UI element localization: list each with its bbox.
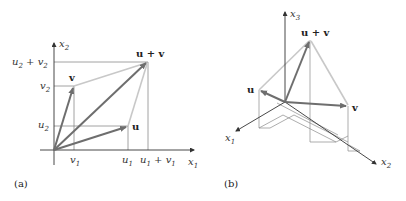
panel-b: x3 x1 x2 u + v u v (b) xyxy=(224,8,392,189)
x1-axis-label: x1 xyxy=(225,132,235,146)
x3-axis-label: x3 xyxy=(290,8,301,22)
caption-a: (a) xyxy=(14,178,28,189)
label-u-plus-v: u + v xyxy=(301,27,331,38)
label-v: v xyxy=(351,102,359,113)
panel-a: x2 x1 u + v v u u2 + v2 v2 u2 v1 u1 u1 +… xyxy=(12,38,198,189)
x2-axis xyxy=(285,102,376,164)
projection-lines xyxy=(259,40,360,151)
tick-v1: v1 xyxy=(70,154,80,168)
figure-canvas: x2 x1 u + v v u u2 + v2 v2 u2 v1 u1 u1 +… xyxy=(0,0,406,201)
x2-axis-label: x2 xyxy=(59,38,70,52)
x1-axis-label: x1 xyxy=(188,156,198,170)
label-u: u xyxy=(132,121,139,132)
vector-v xyxy=(285,102,346,106)
label-u-plus-v: u + v xyxy=(136,48,166,59)
tick-u2-plus-v2: u2 + v2 xyxy=(12,56,48,70)
caption-b: (b) xyxy=(224,178,238,189)
vector-u-plus-v xyxy=(285,42,309,102)
tick-u2: u2 xyxy=(38,119,49,133)
vector-u xyxy=(261,91,285,102)
label-u: u xyxy=(247,84,254,95)
tick-u1-plus-v1: u1 + v1 xyxy=(140,154,176,168)
x2-axis-label: x2 xyxy=(381,156,392,170)
x1-axis xyxy=(236,102,285,131)
label-v: v xyxy=(68,72,76,83)
tick-v2: v2 xyxy=(40,80,51,94)
tick-u1: u1 xyxy=(122,154,133,168)
